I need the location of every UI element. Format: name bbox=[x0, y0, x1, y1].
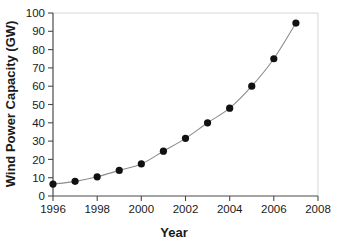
y-tick-label: 40 bbox=[32, 117, 45, 129]
chart-canvas: 0 10 20 30 40 50 60 70 80 90 100 1996 bbox=[0, 0, 342, 244]
x-tick-label: 2002 bbox=[173, 203, 199, 215]
data-point bbox=[182, 135, 189, 142]
x-tick-label: 1998 bbox=[84, 203, 110, 215]
y-tick-label: 70 bbox=[32, 62, 45, 74]
data-point bbox=[116, 167, 123, 174]
y-axis-title: Wind Power Capacity (GW) bbox=[3, 21, 18, 188]
y-tick-label: 80 bbox=[32, 44, 45, 56]
x-tick-label: 2008 bbox=[305, 203, 331, 215]
data-point bbox=[94, 173, 101, 180]
data-point bbox=[204, 119, 211, 126]
y-tick-label: 60 bbox=[32, 80, 45, 92]
y-tick-label: 50 bbox=[32, 99, 45, 111]
data-point bbox=[270, 55, 277, 62]
x-tick-label: 2000 bbox=[129, 203, 155, 215]
y-tick-label: 90 bbox=[32, 25, 45, 37]
x-tick-label: 2006 bbox=[261, 203, 287, 215]
y-tick-label: 10 bbox=[32, 172, 45, 184]
data-point bbox=[71, 178, 78, 185]
data-point bbox=[248, 83, 255, 90]
data-point bbox=[226, 105, 233, 112]
y-tick-label: 20 bbox=[32, 154, 45, 166]
data-point bbox=[138, 160, 145, 167]
wind-power-capacity-chart: 0 10 20 30 40 50 60 70 80 90 100 1996 bbox=[0, 0, 342, 244]
y-tick-label: 0 bbox=[39, 190, 45, 202]
data-point bbox=[160, 148, 167, 155]
x-tick-label: 2004 bbox=[217, 203, 243, 215]
x-tick-label: 1996 bbox=[40, 203, 66, 215]
x-axis-title: Year bbox=[160, 225, 187, 240]
data-point bbox=[292, 19, 299, 26]
y-tick-label: 30 bbox=[32, 135, 45, 147]
y-tick-label: 100 bbox=[26, 7, 45, 19]
data-point bbox=[49, 181, 56, 188]
